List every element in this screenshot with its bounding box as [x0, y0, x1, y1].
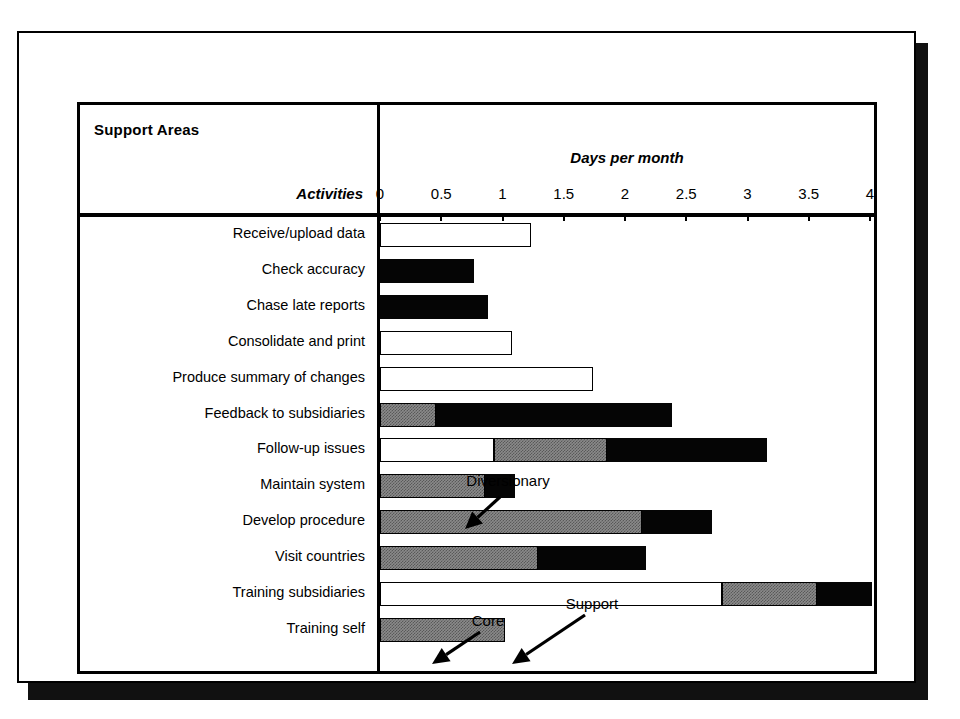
- x-axis-tick-label: 2.5: [676, 185, 697, 202]
- x-axis-tick-label: 2: [621, 185, 629, 202]
- chart-frame: Support Areas Activities Days per month …: [77, 102, 877, 674]
- x-axis-tick-label: 3.5: [798, 185, 819, 202]
- bar-segment-diversionary: [817, 582, 872, 606]
- annotation-arrow-support: [80, 217, 640, 677]
- x-axis-tick-label: 1.5: [553, 185, 574, 202]
- page-sheet: Support Areas Activities Days per month …: [17, 31, 916, 683]
- bar-segment-diversionary: [642, 510, 712, 534]
- x-axis-tick-label: 1: [498, 185, 506, 202]
- bar-segment-support: [722, 582, 818, 606]
- x-axis-tick-label: 0: [376, 185, 384, 202]
- x-axis-tick-label: 3: [743, 185, 751, 202]
- x-axis-tick-group: 00.511.522.533.54: [80, 105, 874, 217]
- plot-area: Receive/upload dataCheck accuracyChase l…: [80, 217, 874, 671]
- x-axis-tick-label: 0.5: [431, 185, 452, 202]
- x-axis-tick-label: 4: [866, 185, 874, 202]
- chart-header: Support Areas Activities Days per month …: [80, 105, 874, 217]
